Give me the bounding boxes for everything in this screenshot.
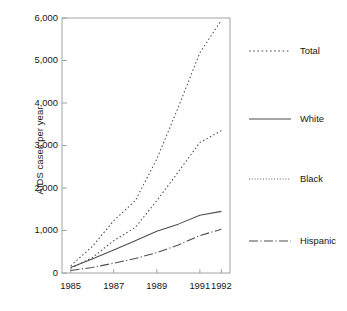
legend-label: White	[300, 112, 324, 126]
legend-label: Hispanic	[300, 234, 336, 248]
legend-swatch-hispanic	[248, 234, 292, 248]
plot-area	[0, 0, 347, 311]
legend-swatch-black	[248, 172, 292, 186]
axis-frame	[62, 18, 230, 273]
series-lines	[71, 20, 222, 270]
legend-swatch-total	[248, 44, 292, 58]
legend-label: Total	[300, 44, 320, 58]
legend-label: Black	[300, 172, 323, 186]
legend-swatch-white	[248, 112, 292, 126]
aids-cases-line-chart: AIDS cases per year 6,000 5,000 4,000 3,…	[0, 0, 347, 311]
